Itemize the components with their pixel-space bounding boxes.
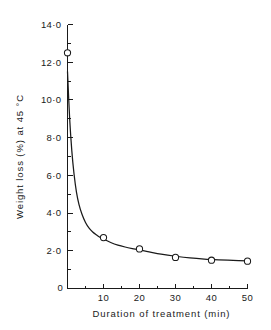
x-axis-title: Duration of treatment (min) xyxy=(93,308,231,319)
y-axis-title: Weight loss (%) at 45 °C xyxy=(14,94,25,219)
x-tick-label-20: 20 xyxy=(134,292,145,303)
y-tick-label-2: 2·0 xyxy=(47,245,62,256)
y-tick-label-10: 10·0 xyxy=(41,94,62,105)
y-tick-label-8: 8·0 xyxy=(47,132,62,143)
data-curve xyxy=(68,72,248,261)
data-point-20min xyxy=(136,246,142,252)
y-tick-label-6: 6·0 xyxy=(47,170,62,181)
data-point-0min xyxy=(64,50,70,56)
y-tick-label-14: 14·0 xyxy=(41,19,62,30)
y-tick-label-4: 4·0 xyxy=(47,207,62,218)
y-tick-label-12: 12·0 xyxy=(41,57,62,68)
data-point-50min xyxy=(244,258,250,264)
x-tick-label-30: 30 xyxy=(170,292,181,303)
data-point-30min xyxy=(172,254,178,260)
x-tick-label-40: 40 xyxy=(206,292,217,303)
plot-axes xyxy=(68,25,248,289)
x-axis-tick-labels: 1020304050 xyxy=(98,292,253,303)
origin-tick-label: 0 xyxy=(58,282,63,293)
weight-loss-decay-chart: 2·04·06·08·010·012·014·0 1020304050 0 Du… xyxy=(0,0,271,330)
x-tick-label-50: 50 xyxy=(242,292,253,303)
chart-figure: 2·04·06·08·010·012·014·0 1020304050 0 Du… xyxy=(0,0,271,330)
data-point-40min xyxy=(208,257,214,263)
y-axis-tick-labels: 2·04·06·08·010·012·014·0 xyxy=(41,19,62,256)
data-point-10min xyxy=(100,234,106,240)
x-tick-label-10: 10 xyxy=(98,292,109,303)
